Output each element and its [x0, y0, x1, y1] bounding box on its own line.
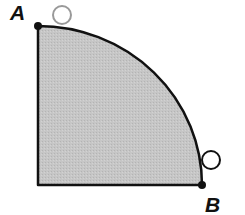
- label-b: B: [205, 193, 220, 215]
- diagram-canvas: A B: [0, 0, 245, 215]
- point-b-dot: [198, 181, 206, 189]
- point-a-dot: [34, 22, 42, 30]
- ball-near-a: [53, 6, 71, 24]
- ball-near-b: [202, 151, 220, 169]
- quarter-circle-region: [38, 26, 202, 185]
- label-a: A: [9, 1, 25, 24]
